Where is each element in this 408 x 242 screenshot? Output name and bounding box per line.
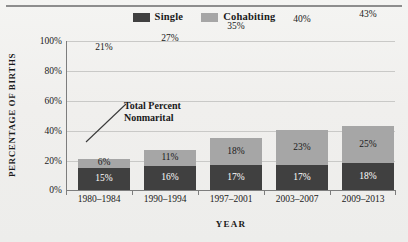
bar-segment-label-cohabiting-2: 11%: [161, 153, 178, 163]
y-tick-40: 40%: [18, 127, 62, 137]
bar-group-2009-2013[interactable]: 43% 25% 18%: [342, 41, 394, 190]
bar-segment-label-cohabiting-1: 6%: [98, 158, 111, 168]
bar-group-1980-1984[interactable]: 21% 6% 15%: [78, 41, 130, 190]
bar-segment-label-cohabiting-3: 18%: [227, 147, 244, 157]
x-tick-label-1990-1994: 1990–1994: [132, 195, 198, 205]
bar-segment-label-cohabiting-5: 25%: [359, 140, 376, 150]
bar-total-label-1: 21%: [64, 43, 144, 53]
x-axis-tick-labels: 1980–1984 1990–1994 1997–2001 2003–2007 …: [66, 195, 395, 211]
bar-stack-3: 18% 17%: [210, 138, 262, 190]
y-tick-80: 80%: [18, 67, 62, 77]
x-tick-label-2003-2007: 2003–2007: [264, 195, 330, 205]
annotation-total-percent-nonmarital: Total Percent Nonmarital: [124, 100, 181, 124]
bar-segment-label-single-2: 16%: [161, 173, 178, 183]
bar-stack-2: 11% 16%: [144, 150, 196, 190]
bar-stack-4: 23% 17%: [276, 130, 328, 190]
bar-stack-5: 25% 18%: [342, 126, 394, 190]
bar-series-container: 21% 6% 15% 27% 11% 16%: [66, 41, 395, 190]
x-tick-label-1980-1984: 1980–1984: [66, 195, 132, 205]
bar-segment-single-5: 18%: [342, 163, 394, 190]
y-tick-20: 20%: [18, 157, 62, 167]
bar-segment-label-single-3: 17%: [227, 173, 244, 183]
bar-segment-label-single-4: 17%: [293, 173, 310, 183]
x-tick-label-2009-2013: 2009–2013: [330, 195, 396, 205]
bar-total-label-5: 43%: [328, 10, 408, 20]
top-divider-rule: [6, 5, 402, 7]
bar-segment-label-single-5: 18%: [359, 172, 376, 182]
legend-item-single: Single: [133, 12, 184, 23]
bar-total-label-2: 27%: [130, 34, 210, 44]
annotation-line-1: Total Percent: [124, 100, 181, 112]
bar-segment-cohabiting-2: 11%: [144, 150, 196, 166]
bar-stack-1: 6% 15%: [78, 159, 130, 190]
x-axis-title: YEAR: [66, 219, 396, 229]
chart-figure: Single Cohabiting PERCENTAGE OF BIRTHS 1…: [0, 0, 408, 242]
y-axis-tick-labels: 100% 80% 60% 40% 20% 0%: [18, 41, 62, 191]
bar-group-1997-2001[interactable]: 35% 18% 17%: [210, 41, 262, 190]
y-tick-0: 0%: [18, 186, 62, 196]
annotation-line-2: Nonmarital: [124, 112, 181, 124]
y-tick-60: 60%: [18, 97, 62, 107]
bar-segment-cohabiting-5: 25%: [342, 126, 394, 163]
bar-segment-cohabiting-1: 6%: [78, 159, 130, 168]
legend-swatch-cohabiting: [201, 13, 218, 22]
bar-segment-single-4: 17%: [276, 165, 328, 190]
y-axis-title: PERCENTAGE OF BIRTHS: [7, 40, 17, 190]
bar-segment-cohabiting-4: 23%: [276, 130, 328, 164]
bar-segment-single-2: 16%: [144, 166, 196, 190]
bar-segment-label-single-1: 15%: [95, 174, 112, 184]
x-axis-line: [66, 190, 396, 191]
y-tick-100: 100%: [18, 37, 62, 47]
bar-segment-single-1: 15%: [78, 168, 130, 190]
bar-segment-label-cohabiting-4: 23%: [293, 143, 310, 153]
x-tick-label-1997-2001: 1997–2001: [198, 195, 264, 205]
bar-segment-single-3: 17%: [210, 165, 262, 190]
bar-group-2003-2007[interactable]: 40% 23% 17%: [276, 41, 328, 190]
bar-segment-cohabiting-3: 18%: [210, 138, 262, 165]
legend-swatch-single: [133, 13, 150, 22]
legend-label-single: Single: [155, 12, 184, 23]
